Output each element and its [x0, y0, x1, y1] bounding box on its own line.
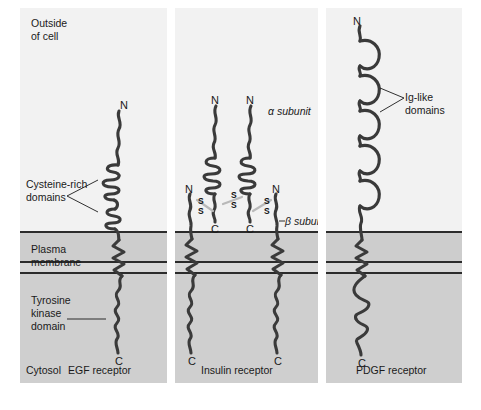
figure-canvas: N C EGF receptor — [0, 0, 481, 410]
tyrosine-kinase-line1: Tyrosine — [31, 294, 71, 306]
beta-subunit-label: β subunit — [285, 215, 318, 228]
cysteine-rich-line1: Cysteine-rich — [26, 178, 87, 190]
ig-like-domains-label: Ig-likedomains — [405, 91, 445, 117]
panel-caption-pdgf: PDGF receptor — [356, 364, 427, 377]
cysteine-rich-line2: domains — [26, 191, 66, 203]
cysteine-rich-domains-label: Cysteine-richdomains — [26, 178, 87, 204]
panel-pdgf-receptor: N C Ig-likedomains PDGF receptor — [326, 8, 462, 383]
outside-of-cell-line1: Outside — [31, 17, 67, 29]
insulin-leader-lines — [175, 8, 318, 383]
outside-of-cell-line2: of cell — [31, 30, 58, 42]
cytosol-label: Cytosol — [26, 364, 61, 377]
tyrosine-kinase-line2: kinase — [31, 307, 61, 319]
pdgf-leader-lines — [326, 8, 462, 383]
plasma-membrane-line2: membrane — [31, 256, 81, 268]
ig-like-domains-label-line1: Ig-like — [405, 91, 433, 103]
panel-caption-egf: EGF receptor — [68, 364, 131, 377]
tyrosine-kinase-line3: domain — [31, 320, 65, 332]
outside-of-cell-label: Outsideof cell — [31, 17, 67, 43]
tyrosine-kinase-domain-label: Tyrosinekinasedomain — [31, 294, 71, 333]
ig-like-domains-label-line2: domains — [405, 104, 445, 116]
panel-caption-insulin: Insulin receptor — [201, 364, 273, 377]
plasma-membrane-label: Plasmamembrane — [31, 243, 81, 269]
panel-insulin-receptor: N N C C N N C C S S S S S S α subunit β … — [175, 8, 318, 383]
plasma-membrane-line1: Plasma — [31, 243, 66, 255]
